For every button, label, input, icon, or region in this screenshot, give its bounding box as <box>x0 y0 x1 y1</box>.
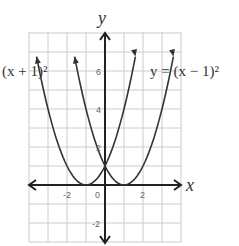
tick-y-6: 6 <box>96 67 101 77</box>
tick-y-neg2: -2 <box>92 219 100 229</box>
left-curve-label: (x + 1)² <box>2 63 48 80</box>
tick-y-4: 4 <box>96 105 101 115</box>
y-axis <box>100 33 110 243</box>
tick-y-2: 2 <box>96 143 101 153</box>
tick-x-2: 2 <box>140 190 145 200</box>
right-curve-label: y = (x − 1)² <box>150 63 219 80</box>
graph-figure: y x (x + 1)² y = (x − 1)² -2 0 2 6 4 2 -… <box>0 0 239 246</box>
tick-x-0: 0 <box>95 190 100 200</box>
tick-x-neg2: -2 <box>63 190 71 200</box>
y-axis-label: y <box>96 8 106 28</box>
x-axis-label: x <box>185 175 194 195</box>
